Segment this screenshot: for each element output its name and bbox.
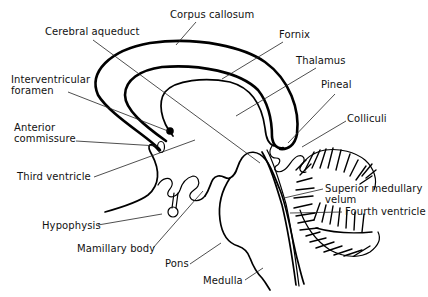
leader-cerebral-aqueduct [93, 40, 260, 163]
label-pons: Pons [165, 258, 189, 269]
label-medulla: Medulla [203, 275, 243, 286]
label-third-ventricle: Third ventricle [16, 171, 91, 182]
lamina-terminalis-curve [105, 145, 158, 212]
label-interventricular-foramen-line2: foramen [11, 85, 54, 96]
leader-pons [190, 243, 221, 264]
pons-outline [219, 178, 270, 290]
hypophysis-ball [168, 207, 178, 217]
brain-sagittal-diagram: Corpus callosum Cerebral aqueduct Fornix… [0, 0, 428, 297]
leader-hypophysis [98, 214, 162, 225]
label-thalamus: Thalamus [295, 55, 346, 66]
leader-anterior-commissure-2 [76, 141, 158, 146]
label-mamillary-body: Mamillary body [77, 243, 155, 254]
label-interventricular-foramen-line1: Interventricular [11, 74, 91, 85]
label-anterior-commissure-line2: commissure [14, 133, 76, 144]
label-anterior-commissure-line1: Anterior [14, 122, 56, 133]
label-fornix: Fornix [279, 29, 310, 40]
leader-colliculi [302, 121, 346, 147]
leader-medulla [245, 268, 263, 280]
label-colliculi: Colliculi [347, 113, 387, 124]
label-superior-medullary-velum-line1: Superior medullary [325, 183, 423, 194]
label-superior-medullary-velum-line2: velum [325, 194, 356, 205]
label-hypophysis: Hypophysis [42, 220, 101, 231]
label-fourth-ventricle: Fourth ventricle [345, 206, 426, 217]
label-cerebral-aqueduct: Cerebral aqueduct [45, 26, 140, 37]
leader-interventricular-foramen-2 [68, 92, 168, 131]
leader-fourth-ventricle [290, 212, 342, 213]
label-pineal: Pineal [321, 79, 352, 90]
label-corpus-callosum: Corpus callosum [170, 9, 254, 20]
leader-pineal [288, 94, 335, 143]
leader-mamillary-body [153, 191, 203, 248]
